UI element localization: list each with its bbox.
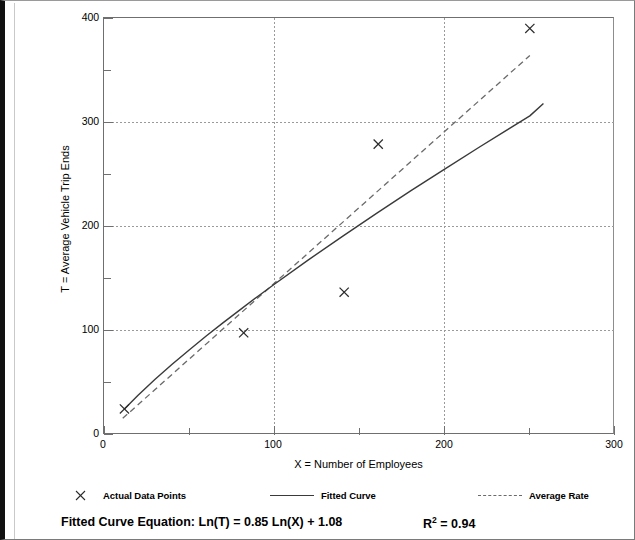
- dashed-line-icon: [478, 488, 522, 502]
- fitted-curve-equation: Fitted Curve Equation: Ln(T) = 0.85 Ln(X…: [61, 515, 342, 529]
- data-point-marker-3: [374, 140, 383, 149]
- legend-label-average-rate: Average Rate: [529, 490, 589, 501]
- y-tick-0: 0: [65, 428, 99, 438]
- r-squared-value: R2 = 0.94: [423, 515, 475, 531]
- y-axis-major-ticks: [104, 19, 113, 435]
- r-value: = 0.94: [440, 517, 475, 531]
- plot-canvas: [104, 18, 615, 435]
- solid-line-icon: [270, 488, 314, 502]
- y-tick-300: 300: [65, 116, 99, 126]
- x-axis-title: X = Number of Employees: [103, 458, 614, 470]
- y-tick-400: 400: [65, 12, 99, 22]
- data-point-marker-2: [340, 288, 349, 297]
- average-rate-line: [123, 56, 530, 419]
- vertical-gridlines: [274, 18, 444, 435]
- y-axis-tick-labels: 400 300 200 100 0: [59, 17, 99, 434]
- chart-figure: T = Average Vehicle Trip Ends 400 300 20…: [15, 3, 635, 479]
- chart-legend: Actual Data Points Fitted Curve Average …: [15, 486, 635, 506]
- x-tick-100: 100: [253, 439, 293, 450]
- plot-area: [103, 17, 614, 434]
- x-marker-icon: [73, 488, 95, 502]
- y-tick-100: 100: [65, 324, 99, 334]
- x-tick-200: 200: [424, 439, 464, 450]
- data-point-marker-4: [525, 24, 534, 33]
- x-tick-0: 0: [83, 439, 123, 450]
- legend-item-fitted-curve: Fitted Curve: [270, 486, 376, 504]
- legend-item-actual-data-points: Actual Data Points: [73, 486, 186, 504]
- page-frame: T = Average Vehicle Trip Ends 400 300 20…: [0, 0, 635, 540]
- legend-item-average-rate: Average Rate: [478, 486, 589, 504]
- chart-footer: Fitted Curve Equation: Ln(T) = 0.85 Ln(X…: [15, 515, 635, 537]
- x-axis-tick-labels: 0 100 200 300: [103, 439, 614, 455]
- legend-label-actual-data-points: Actual Data Points: [103, 490, 186, 501]
- data-point-marker-1: [239, 328, 248, 337]
- page-inner-rule: T = Average Vehicle Trip Ends 400 300 20…: [14, 3, 635, 539]
- x-tick-300: 300: [594, 439, 634, 450]
- fitted-curve-line: [124, 103, 543, 409]
- r-exponent: 2: [432, 515, 437, 525]
- data-point-marker-0: [120, 404, 129, 413]
- legend-label-fitted-curve: Fitted Curve: [321, 490, 376, 501]
- r-symbol: R: [423, 517, 432, 531]
- horizontal-gridlines: [104, 122, 615, 331]
- y-tick-200: 200: [65, 220, 99, 230]
- x-axis-ticks: [105, 426, 615, 435]
